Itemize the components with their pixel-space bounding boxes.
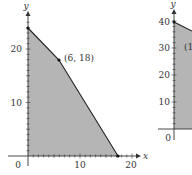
vertex-0-40 [173,21,176,24]
x-axis-label-1: x [143,151,148,161]
y2-tick-label-30: 30 [159,43,171,53]
y2-tick-label-10: 10 [159,97,171,107]
y-axis-arrow-1 [26,11,31,16]
point-label-6-18: (6, 18) [64,53,94,63]
y2-tick-label-20: 20 [159,70,171,80]
figure: 0 10 20 10 20 x y (6, 18) 0 10 20 30 [0,0,192,175]
vertex-0-24 [26,26,29,29]
chart-2: 0 10 20 30 40 y (1 [158,0,192,143]
vertex-18-0 [116,154,119,157]
x-axis-arrow-1 [136,154,141,159]
y-axis-arrow-2 [172,9,177,14]
y-axis-label-1: y [22,1,29,11]
point-label-partial: (1 [184,42,192,52]
chart-1: 0 10 20 10 20 x y (6, 18) [8,1,148,170]
y-tick-label-20: 20 [11,44,23,54]
y-axis-label-2: y [169,0,176,9]
y-tick-label-10: 10 [11,98,23,108]
y2-tick-label-40: 40 [159,17,171,27]
feasible-region-1 [28,28,118,156]
vertex-6-18 [57,58,60,61]
x-tick-label-10: 10 [74,160,86,170]
origin-label-1: 0 [15,160,21,170]
x-tick-label-20: 20 [125,160,137,170]
feasible-region-2 [174,22,192,129]
origin-label-2: 0 [165,133,171,143]
